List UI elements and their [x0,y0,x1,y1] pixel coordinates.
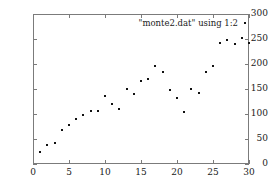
y-tick-label: 250 [239,34,268,43]
x-tick-label: 15 [129,168,153,177]
legend-label: "monte2.dat" using 1:2 [138,18,238,28]
y-tick-mark-right [245,139,249,140]
y-tick-label: 150 [239,84,268,93]
y-tick-label: 300 [239,9,268,18]
y-tick-mark-right [245,114,249,115]
x-tick-label: 25 [201,168,225,177]
y-tick-mark [33,64,37,65]
x-tick-mark [141,160,142,164]
scatter-plot-figure: 050100150200250300 051015202530 "monte2.… [0,0,268,188]
plot-frame [33,14,249,164]
x-tick-label: 20 [165,168,189,177]
y-tick-label: 100 [239,109,268,118]
y-tick-mark-right [245,164,249,165]
y-tick-mark-right [245,89,249,90]
y-tick-label: 50 [239,134,268,143]
x-tick-mark [105,160,106,164]
x-tick-mark-top [69,14,70,18]
y-tick-mark [33,139,37,140]
y-tick-mark [33,114,37,115]
y-tick-label: 200 [239,59,268,68]
y-tick-mark [33,89,37,90]
y-tick-mark [33,164,37,165]
x-tick-mark [249,160,250,164]
x-tick-mark [213,160,214,164]
x-tick-label: 30 [237,168,261,177]
x-tick-mark [69,160,70,164]
x-tick-mark [177,160,178,164]
x-tick-label: 5 [57,168,81,177]
x-tick-mark-top [33,14,34,18]
x-tick-mark [33,160,34,164]
x-tick-mark-top [105,14,106,18]
y-tick-mark-right [245,39,249,40]
x-tick-label: 10 [93,168,117,177]
y-tick-mark-right [245,64,249,65]
y-tick-mark [33,39,37,40]
x-tick-label: 0 [21,168,45,177]
x-tick-mark-top [249,14,250,18]
legend-marker-icon [244,22,246,24]
